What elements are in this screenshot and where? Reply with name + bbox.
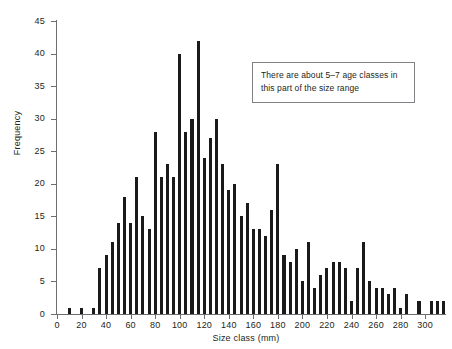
histogram-bar	[295, 249, 298, 314]
x-tick-mark	[352, 315, 353, 319]
histogram-bar	[381, 288, 384, 314]
histogram-bar	[203, 158, 206, 314]
x-tick-mark	[229, 315, 230, 319]
histogram-bar	[178, 54, 181, 314]
annotation-line-2: this part of the size range	[261, 83, 359, 93]
y-tick-mark	[51, 54, 56, 55]
y-tick-label: 10	[5, 244, 45, 253]
y-tick-mark	[51, 184, 56, 185]
histogram-bar	[209, 138, 212, 314]
annotation-line-1: There are about 5–7 age classes in	[261, 70, 398, 80]
x-tick-mark	[106, 315, 107, 319]
histogram-bar	[227, 190, 230, 314]
histogram-bar	[264, 236, 267, 314]
x-tick-mark	[327, 315, 328, 319]
histogram-bar	[430, 301, 433, 314]
histogram-bar	[276, 164, 279, 314]
histogram-bar	[442, 301, 445, 314]
histogram-bar	[393, 288, 396, 314]
histogram-bar	[148, 229, 151, 314]
histogram-bar	[338, 262, 341, 314]
histogram-bar	[105, 255, 108, 314]
histogram-bar	[233, 184, 236, 314]
histogram-bar	[417, 301, 420, 314]
histogram-bar	[387, 294, 390, 314]
histogram-bar	[436, 301, 439, 314]
y-tick-label: 35	[5, 82, 45, 91]
histogram-figure: 051015202530354045 020406080100120140160…	[0, 0, 452, 349]
x-tick-mark	[204, 315, 205, 319]
histogram-bar	[240, 216, 243, 314]
histogram-bar	[117, 223, 120, 314]
y-tick-label: 30	[5, 114, 45, 123]
y-tick-label: 15	[5, 212, 45, 221]
histogram-bar	[399, 308, 402, 315]
y-tick-label: 0	[5, 310, 45, 319]
y-tick-mark	[51, 249, 56, 250]
histogram-bar	[356, 268, 359, 314]
x-tick-mark	[278, 315, 279, 319]
y-tick-mark	[51, 86, 56, 87]
y-tick-mark	[51, 216, 56, 217]
x-tick-mark	[82, 315, 83, 319]
histogram-bar	[135, 177, 138, 314]
histogram-bar	[172, 177, 175, 314]
histogram-bar	[270, 210, 273, 314]
y-tick-mark	[51, 21, 56, 22]
histogram-bar	[215, 119, 218, 314]
histogram-bar	[92, 308, 95, 315]
y-tick-label: 40	[5, 49, 45, 58]
histogram-bar	[325, 268, 328, 314]
x-tick-mark	[180, 315, 181, 319]
histogram-bar	[160, 177, 163, 314]
histogram-bar	[252, 229, 255, 314]
x-tick-mark	[155, 315, 156, 319]
histogram-bar	[289, 262, 292, 314]
histogram-bar	[332, 262, 335, 314]
y-tick-mark	[51, 119, 56, 120]
y-tick-label: 25	[5, 147, 45, 156]
y-tick-mark	[51, 281, 56, 282]
histogram-bar	[362, 242, 365, 314]
histogram-bar	[368, 281, 371, 314]
histogram-bar	[141, 216, 144, 314]
y-tick-label: 5	[5, 277, 45, 286]
histogram-bar	[190, 119, 193, 314]
x-tick-mark	[57, 315, 58, 319]
histogram-bar	[375, 288, 378, 314]
x-tick-mark	[302, 315, 303, 319]
x-axis-line	[56, 314, 446, 315]
x-tick-mark	[376, 315, 377, 319]
x-tick-mark	[131, 315, 132, 319]
histogram-bar	[80, 308, 83, 315]
histogram-bar	[111, 242, 114, 314]
histogram-bar	[282, 255, 285, 314]
y-tick-mark	[51, 151, 56, 152]
histogram-bar	[405, 294, 408, 314]
histogram-bar	[184, 132, 187, 314]
x-tick-mark	[425, 315, 426, 319]
y-axis-label: Frequency	[12, 83, 22, 183]
y-tick-label: 20	[5, 179, 45, 188]
histogram-bar	[123, 197, 126, 314]
histogram-bar	[221, 164, 224, 314]
histogram-bar	[344, 268, 347, 314]
histogram-bar	[197, 41, 200, 314]
histogram-bar	[98, 268, 101, 314]
histogram-bar	[307, 242, 310, 314]
histogram-bar	[68, 308, 71, 315]
annotation-callout: There are about 5–7 age classes in this …	[252, 62, 415, 103]
x-tick-mark	[253, 315, 254, 319]
histogram-bar	[319, 275, 322, 314]
histogram-bar	[129, 223, 132, 314]
histogram-bar	[166, 164, 169, 314]
histogram-bar	[246, 203, 249, 314]
x-axis-label: Size class (mm)	[0, 333, 452, 343]
histogram-bar	[301, 281, 304, 314]
x-tick-label: 300	[405, 320, 445, 330]
y-tick-label: 45	[5, 17, 45, 26]
histogram-bar	[258, 229, 261, 314]
histogram-bar	[350, 301, 353, 314]
histogram-bar	[313, 288, 316, 314]
histogram-bar	[154, 132, 157, 314]
